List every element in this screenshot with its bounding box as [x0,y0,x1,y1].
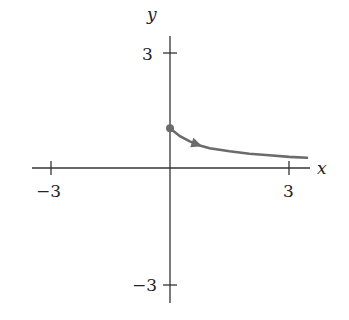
direction-arrow-icon [190,138,202,148]
x-axis-label: x [317,158,327,178]
x-tick-label-neg3: −3 [36,181,61,201]
curve-path [170,128,307,157]
chart: y x −3 3 3 −3 [0,0,349,320]
start-point [166,124,174,132]
y-axis-label: y [146,4,157,24]
y-tick-label-neg3: −3 [132,275,157,295]
y-tick-label-pos3: 3 [142,44,153,64]
x-tick-label-pos3: 3 [283,181,294,201]
